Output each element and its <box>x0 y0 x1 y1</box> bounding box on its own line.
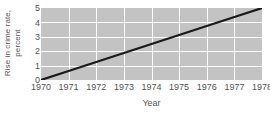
y-axis-title-line-1: Rise in crime rate, <box>3 10 13 76</box>
x-axis-tick-labels: 1970 1971 1972 1973 1974 1975 1976 1977 … <box>41 82 262 96</box>
y-tick-label: 3 <box>28 33 40 42</box>
y-tick-label: 2 <box>28 47 40 56</box>
y-axis-title-line-2: percent <box>13 10 23 76</box>
y-tick-label: 5 <box>28 4 40 13</box>
x-axis-title: Year <box>41 98 262 109</box>
plot-area <box>41 8 262 80</box>
data-series-line <box>41 8 262 80</box>
y-axis-title: Rise in crime rate, percent <box>0 0 26 86</box>
y-axis-tick-labels: 0 1 2 3 4 5 <box>26 0 40 86</box>
x-tick-label: 1978 <box>245 82 270 93</box>
y-tick-label: 4 <box>28 19 40 28</box>
y-tick-label: 1 <box>28 62 40 71</box>
crime-rate-line-chart: Rise in crime rate, percent 0 1 2 3 4 5 … <box>0 0 270 117</box>
